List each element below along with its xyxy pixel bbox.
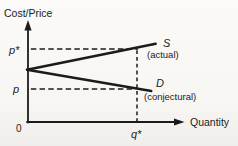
plot-lines <box>27 44 156 122</box>
price-label: p <box>12 83 19 95</box>
demand-curve-note: (conjectural) <box>144 91 196 102</box>
curve-D <box>27 70 151 91</box>
y-axis-label: Cost/Price <box>4 7 53 19</box>
x-axis-label: Quantity <box>190 116 230 128</box>
y-axis-arrow <box>24 20 31 31</box>
supply-curve-label: S <box>163 37 171 49</box>
origin-label: 0 <box>16 123 22 134</box>
x-axis-arrow <box>174 118 185 125</box>
demand-curve-label: D <box>156 77 164 89</box>
supply-curve-note: (actual) <box>147 49 179 60</box>
supply-demand-diagram: Cost/Price Quantity 0 p* p q* S (actual)… <box>0 0 238 146</box>
chart-canvas: Cost/Price Quantity 0 p* p q* S (actual)… <box>0 0 238 146</box>
price-star-label: p* <box>8 44 20 56</box>
quantity-star-label: q* <box>131 128 142 140</box>
